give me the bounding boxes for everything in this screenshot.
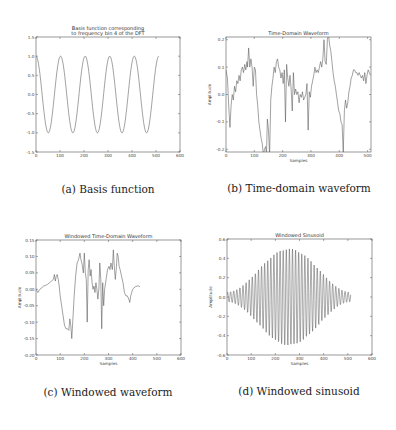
y-tick-label: 0.2 — [219, 275, 226, 280]
chart-title: Windowed Sinusoid — [275, 232, 324, 238]
data-line — [227, 249, 351, 345]
y-tick-label: -0.4 — [217, 333, 226, 338]
y-tick-label: 0.0 — [219, 295, 226, 300]
x-tick-label: 600 — [368, 356, 376, 361]
y-tick-label: -0.2 — [217, 314, 226, 319]
caption-b: (b) Time-domain waveform — [227, 182, 371, 194]
x-tick-label: 0 — [226, 356, 229, 361]
y-tick-label: 0.6 — [219, 237, 226, 242]
x-tick-label: 500 — [344, 356, 352, 361]
x-tick-label: 200 — [271, 356, 279, 361]
x-axis-label: Samples — [291, 361, 309, 366]
caption-d: (d) Windowed sinusoid — [238, 385, 359, 397]
caption-c: (c) Windowed waveform — [43, 386, 172, 398]
x-tick-label: 100 — [247, 356, 255, 361]
caption-a: (a) Basis function — [61, 183, 154, 195]
y-tick-label: -0.6 — [217, 353, 226, 358]
y-axis-label: Amplitude — [208, 286, 213, 308]
x-tick-label: 400 — [320, 356, 328, 361]
y-tick-label: 0.4 — [219, 256, 226, 261]
chart-windowed-sinusoid: 0100200300400500600-0.6-0.4-0.20.00.20.4… — [0, 0, 396, 430]
figure: 0100200300400500600-1.5-1.0-0.50.00.51.0… — [0, 0, 396, 430]
